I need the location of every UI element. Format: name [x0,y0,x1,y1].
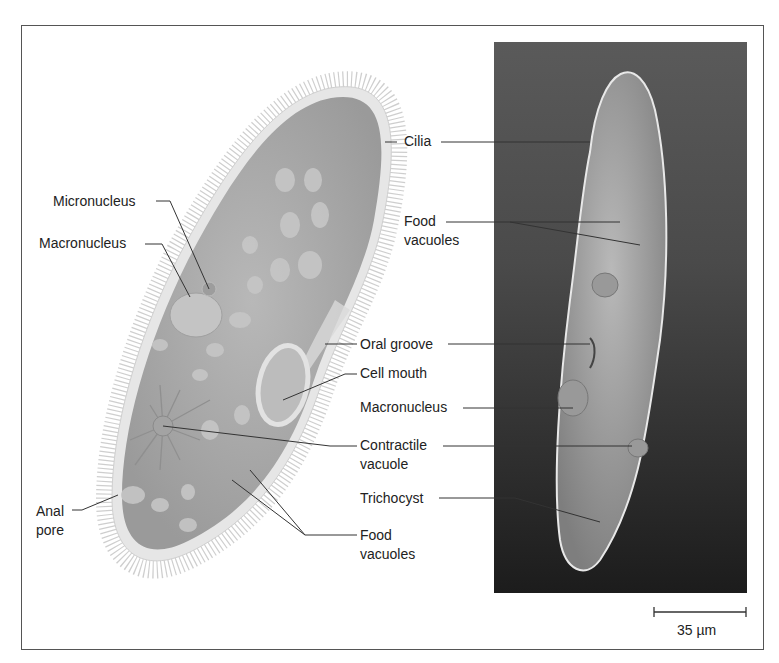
label-contractile-vacuole-2: vacuole [360,456,408,473]
label-anal-pore-1: Anal [36,503,64,520]
label-food-vacuoles-top-1: Food [404,213,436,230]
scale-bar-label: 35 µm [677,622,716,639]
diagram-graphics [0,0,779,663]
label-food-vacuoles-bottom-1: Food [360,527,392,544]
label-cilia: Cilia [404,133,431,150]
label-contractile-vacuole-1: Contractile [360,437,427,454]
label-oral-groove: Oral groove [360,336,433,353]
label-food-vacuoles-top-2: vacuoles [404,232,459,249]
illustration-macronucleus [170,293,222,337]
label-cell-mouth: Cell mouth [360,365,427,382]
label-micronucleus: Micronucleus [53,193,135,210]
label-macronucleus-illustration: Macronucleus [39,235,126,252]
label-trichocyst: Trichocyst [360,490,423,507]
label-anal-pore-2: pore [36,522,64,539]
label-food-vacuoles-bottom-2: vacuoles [360,546,415,563]
photo-paramecium [557,72,667,570]
label-macronucleus-photo: Macronucleus [360,399,447,416]
